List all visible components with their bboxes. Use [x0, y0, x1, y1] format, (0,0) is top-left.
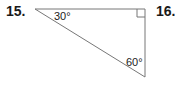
right-triangle-diagram: 30° 60° [0, 0, 175, 85]
angle-label-60: 60° [126, 56, 143, 68]
right-angle-marker-icon [137, 9, 145, 17]
angle-label-30: 30° [54, 10, 71, 22]
worksheet-canvas: 15. 16. 30° 60° [0, 0, 175, 85]
